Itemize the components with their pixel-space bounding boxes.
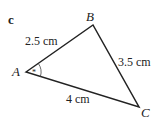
angle-marker: * (32, 68, 36, 77)
side-label-ac: 4 cm (66, 92, 90, 106)
triangle-diagram: c * A B C 2.5 cm 3.5 cm 4 cm (0, 0, 166, 121)
vertex-label-b: B (86, 9, 94, 24)
part-label: c (8, 12, 14, 27)
vertex-label-c: C (141, 105, 150, 120)
vertex-label-a: A (11, 64, 20, 79)
angle-arc-a (38, 63, 41, 76)
side-label-bc: 3.5 cm (118, 55, 151, 69)
side-label-ab: 2.5 cm (25, 34, 58, 48)
